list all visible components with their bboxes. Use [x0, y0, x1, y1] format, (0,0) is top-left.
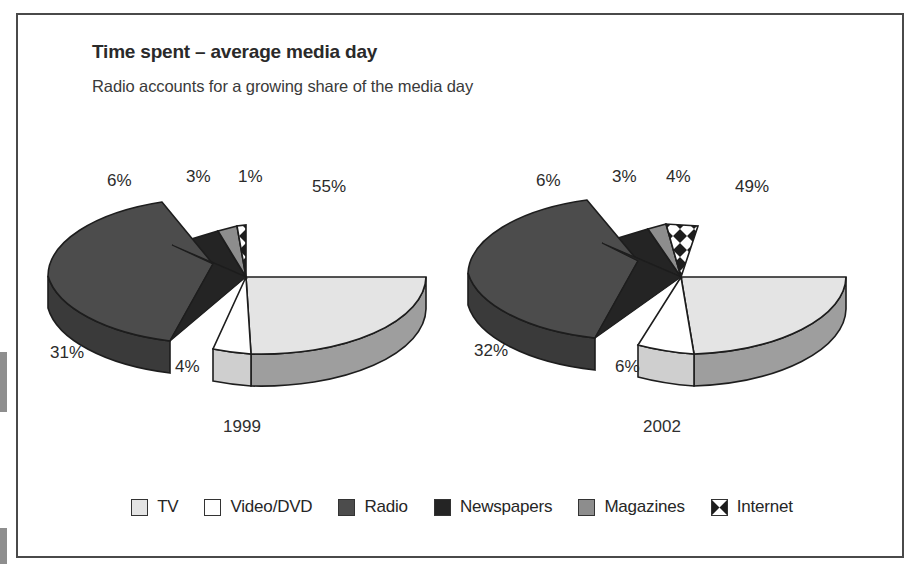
legend-item-radio[interactable]: Radio: [338, 497, 407, 517]
pct-label-video-1999: 4%: [175, 357, 200, 377]
pct-label-magazines-2002: 3%: [612, 167, 637, 187]
pct-label-tv-2002: 49%: [735, 177, 769, 197]
legend-item-video-dvd[interactable]: Video/DVD: [204, 497, 312, 517]
chart-legend: TV Video/DVD Radio Newspapers Magazines …: [18, 497, 906, 517]
pct-label-internet-2002: 4%: [666, 167, 691, 187]
legend-item-tv[interactable]: TV: [131, 497, 178, 517]
newspapers-swatch-icon: [434, 499, 451, 516]
legend-item-magazines[interactable]: Magazines: [578, 497, 684, 517]
pct-label-magazines-1999: 3%: [186, 167, 211, 187]
pie-chart-1999: 55% 4% 31% 6% 3% 1% 1999: [22, 145, 462, 465]
magazines-swatch-icon: [578, 499, 595, 516]
pct-label-newspapers-2002: 6%: [536, 171, 561, 191]
video-dvd-swatch-icon: [204, 499, 221, 516]
chart-figure-frame: Time spent – average media day Radio acc…: [16, 13, 904, 558]
scan-artifact-mark-upper: [0, 352, 7, 412]
pct-label-radio-2002: 32%: [474, 341, 508, 361]
chart-title: Time spent – average media day: [92, 41, 377, 63]
legend-label-newspapers: Newspapers: [460, 497, 553, 517]
pie-chart-2002: 49% 6% 32% 6% 3% 4% 2002: [442, 145, 882, 465]
pie-charts-area: 55% 4% 31% 6% 3% 1% 1999: [18, 145, 902, 465]
legend-label-radio: Radio: [364, 497, 407, 517]
pct-label-internet-1999: 1%: [238, 167, 263, 187]
legend-label-internet: Internet: [737, 497, 793, 517]
slice-side-video: [213, 349, 251, 386]
legend-item-internet[interactable]: Internet: [711, 497, 793, 517]
radio-swatch-icon: [338, 499, 355, 516]
legend-item-newspapers[interactable]: Newspapers: [434, 497, 553, 517]
internet-swatch-icon: [711, 499, 728, 516]
pie-2002-graphic: [442, 145, 882, 415]
tv-swatch-icon: [131, 499, 148, 516]
chart-subtitle: Radio accounts for a growing share of th…: [92, 77, 473, 96]
year-label-1999: 1999: [22, 417, 462, 437]
pct-label-tv-1999: 55%: [312, 177, 346, 197]
legend-label-tv: TV: [157, 497, 178, 517]
scan-artifact-mark-lower: [0, 528, 7, 564]
pct-label-video-2002: 6%: [615, 357, 640, 377]
pct-label-radio-1999: 31%: [50, 343, 84, 363]
year-label-2002: 2002: [442, 417, 882, 437]
legend-label-video-dvd: Video/DVD: [230, 497, 312, 517]
pct-label-newspapers-1999: 6%: [107, 171, 132, 191]
legend-label-magazines: Magazines: [604, 497, 684, 517]
